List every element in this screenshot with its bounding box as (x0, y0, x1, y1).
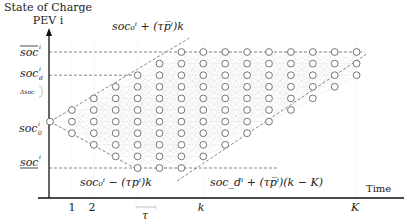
state-node (266, 72, 273, 79)
svg-text:soc: soc (20, 46, 38, 59)
state-node (178, 165, 185, 172)
state-node (288, 72, 295, 79)
state-node (178, 95, 185, 102)
x-axis-title: Time (366, 183, 391, 194)
state-node (309, 72, 316, 79)
state-node (200, 118, 207, 125)
state-node (178, 141, 185, 148)
label-soc-0: soc i 0 (19, 120, 42, 136)
state-node (134, 153, 141, 160)
x-tick-2: 2 (89, 201, 96, 214)
state-node (353, 72, 360, 79)
state-node (90, 141, 97, 148)
state-node (90, 118, 97, 125)
transition-edge (72, 98, 94, 133)
state-node (244, 49, 251, 56)
transition-edge (269, 87, 291, 122)
svg-text:d: d (39, 74, 43, 81)
state-node (222, 141, 229, 148)
state-node (200, 107, 207, 114)
state-node (288, 60, 295, 67)
state-node (331, 60, 338, 67)
state-node (156, 60, 163, 67)
state-node (244, 118, 251, 125)
state-node (331, 83, 338, 90)
state-node (331, 72, 338, 79)
transition-edge (94, 87, 116, 122)
state-node (200, 153, 207, 160)
state-node (112, 95, 119, 102)
state-node (200, 95, 207, 102)
state-node (266, 95, 273, 102)
transition-edge (335, 52, 357, 87)
state-node (288, 83, 295, 90)
state-node (222, 49, 229, 56)
state-node (178, 107, 185, 114)
state-node (178, 153, 185, 160)
state-node (222, 83, 229, 90)
svg-text:i: i (39, 43, 41, 50)
state-node (244, 72, 251, 79)
state-node (90, 107, 97, 114)
state-node (134, 118, 141, 125)
soc-trellis-diagram: State of Charge PEV i soc i soc i d Δsoc… (0, 0, 404, 224)
state-node (200, 130, 207, 137)
state-node (156, 107, 163, 114)
state-node (112, 83, 119, 90)
state-node (244, 130, 251, 137)
state-node (288, 49, 295, 56)
x-tick-K: K (350, 201, 360, 214)
state-node (222, 72, 229, 79)
state-node (309, 60, 316, 67)
state-node (244, 83, 251, 90)
svg-text:0: 0 (38, 129, 42, 136)
state-node (156, 130, 163, 137)
state-node (112, 153, 119, 160)
state-node (222, 130, 229, 137)
transition-edge (291, 75, 313, 110)
state-node (134, 95, 141, 102)
state-node (134, 72, 141, 79)
state-node (200, 60, 207, 67)
state-node (112, 130, 119, 137)
state-node (353, 60, 360, 67)
state-node (200, 72, 207, 79)
y-axis-title: State of Charge (4, 1, 92, 14)
state-node (112, 118, 119, 125)
state-node (288, 95, 295, 102)
state-node (178, 60, 185, 67)
transition-edge (247, 98, 269, 133)
state-node (134, 83, 141, 90)
state-node (222, 95, 229, 102)
state-node (112, 141, 119, 148)
state-node (134, 107, 141, 114)
label-soc-d: soc i d (20, 65, 43, 81)
state-node (266, 107, 273, 114)
state-node (266, 118, 273, 125)
state-node (90, 95, 97, 102)
state-node (156, 83, 163, 90)
state-node (178, 72, 185, 79)
state-node (156, 72, 163, 79)
state-node (112, 107, 119, 114)
state-node (134, 165, 141, 172)
state-node (178, 49, 185, 56)
state-node (222, 107, 229, 114)
state-node (200, 83, 207, 90)
state-node (156, 95, 163, 102)
state-node (309, 49, 316, 56)
state-node (134, 130, 141, 137)
state-node (266, 60, 273, 67)
state-node (156, 165, 163, 172)
svg-text:soc: soc (20, 67, 38, 80)
transition-edge (181, 133, 203, 168)
svg-text:i: i (39, 65, 41, 72)
state-node (309, 95, 316, 102)
state-node (178, 118, 185, 125)
state-node (156, 153, 163, 160)
transition-edge (203, 122, 225, 157)
x-tick-1: 1 (69, 201, 76, 214)
state-node (288, 107, 295, 114)
state-node (331, 49, 338, 56)
x-tick-k: k (198, 201, 205, 214)
